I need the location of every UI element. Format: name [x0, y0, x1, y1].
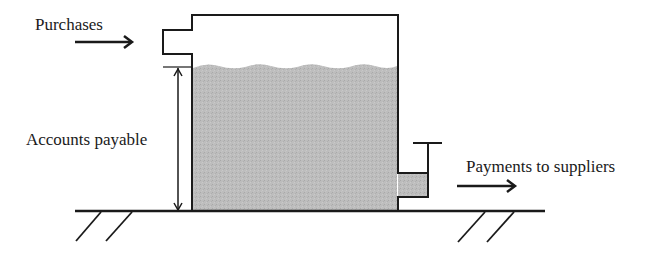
ground-hatch: [487, 212, 514, 242]
ground-hatch: [458, 212, 485, 242]
liquid-fill: [193, 64, 397, 210]
inflow-label: Purchases: [35, 15, 103, 34]
tank-diagram: Purchases Accounts payable Payments to s…: [0, 0, 669, 259]
ground-hatch: [106, 212, 132, 241]
stock-label: Accounts payable: [26, 130, 147, 149]
ground-hatch: [76, 212, 101, 241]
outflow-label: Payments to suppliers: [466, 157, 615, 176]
outlet-liquid: [398, 174, 427, 196]
